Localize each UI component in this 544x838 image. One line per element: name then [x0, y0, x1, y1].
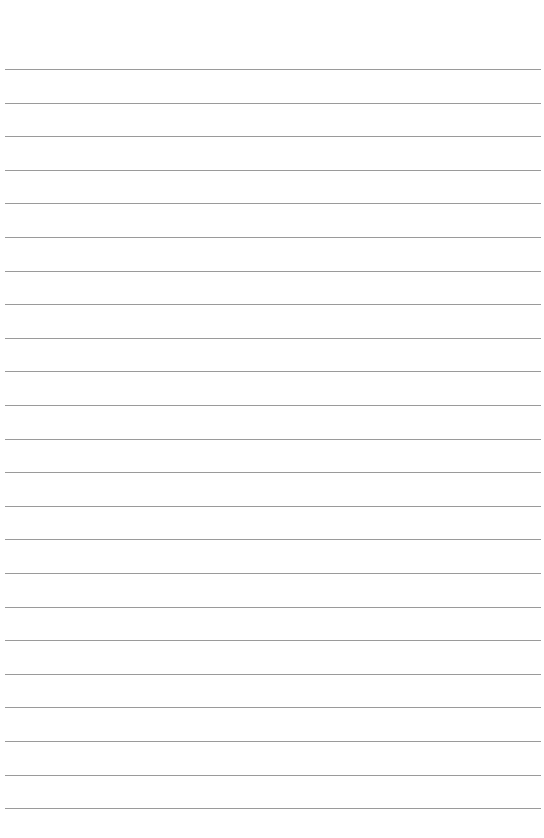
ruled-line — [5, 640, 541, 641]
ruled-line — [5, 472, 541, 473]
ruled-line — [5, 707, 541, 708]
ruled-line — [5, 271, 541, 272]
ruled-line — [5, 304, 541, 305]
ruled-line — [5, 439, 541, 440]
ruled-line — [5, 573, 541, 574]
ruled-line — [5, 674, 541, 675]
ruled-line — [5, 775, 541, 776]
ruled-line — [5, 741, 541, 742]
ruled-line — [5, 69, 541, 70]
ruled-line — [5, 170, 541, 171]
ruled-line — [5, 539, 541, 540]
ruled-line — [5, 607, 541, 608]
ruled-line — [5, 371, 541, 372]
lined-paper-page — [0, 0, 544, 838]
ruled-line — [5, 405, 541, 406]
ruled-line — [5, 808, 541, 809]
ruled-line — [5, 136, 541, 137]
ruled-line — [5, 338, 541, 339]
ruled-line — [5, 237, 541, 238]
ruled-line — [5, 203, 541, 204]
ruled-line — [5, 103, 541, 104]
ruled-line — [5, 506, 541, 507]
